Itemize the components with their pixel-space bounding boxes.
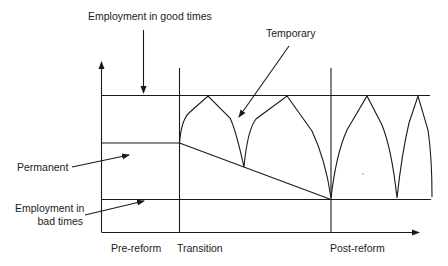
temporary-label: Temporary bbox=[266, 27, 316, 40]
good-times-label: Employment in good times bbox=[88, 10, 212, 23]
bad-times-label-line2: bad times bbox=[15, 215, 83, 228]
bad-times-arrow bbox=[85, 201, 144, 215]
phase-label-transition: Transition bbox=[177, 242, 223, 255]
permanent-label: Permanent bbox=[17, 161, 68, 174]
temporary-arrow bbox=[239, 46, 289, 117]
temporary-curve bbox=[180, 96, 433, 198]
permanent-arrow bbox=[72, 155, 129, 167]
permanent-line-transition bbox=[180, 143, 332, 200]
phase-label-post-reform: Post-reform bbox=[330, 242, 385, 255]
stray-dot bbox=[362, 173, 364, 175]
bad-times-label-line1: Employment in bbox=[15, 202, 83, 215]
phase-label-pre-reform: Pre-reform bbox=[111, 242, 161, 255]
bad-times-label: Employment in bad times bbox=[15, 202, 83, 228]
